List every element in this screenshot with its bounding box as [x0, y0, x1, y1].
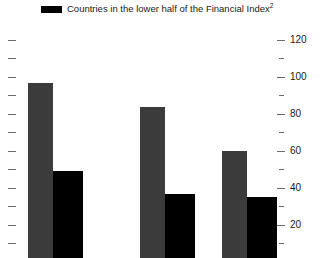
right-axis-tick-major	[277, 225, 285, 226]
right-axis-label: 80	[290, 109, 301, 119]
left-axis-tick	[8, 169, 16, 170]
left-axis-tick	[8, 206, 16, 207]
left-axis-tick	[8, 151, 16, 152]
right-axis-tick-minor	[279, 58, 284, 59]
right-axis-tick-major	[277, 40, 285, 41]
chart-container: Countries in the lower half of the Finan…	[0, 0, 333, 258]
right-axis-tick-minor	[279, 206, 284, 207]
right-axis-tick-major	[277, 151, 285, 152]
left-axis-tick	[8, 77, 16, 78]
bar-black-group-2	[165, 194, 195, 258]
left-axis-tick	[8, 132, 16, 133]
left-axis-tick	[8, 225, 16, 226]
bar-black-group-1	[53, 171, 83, 258]
bar-gray-group-2	[140, 107, 165, 258]
bar-gray-group-3	[222, 151, 247, 258]
right-axis-tick-minor	[279, 243, 284, 244]
right-axis-label: 120	[290, 35, 307, 45]
right-axis-tick-major	[277, 77, 285, 78]
right-axis-label: 20	[290, 220, 301, 230]
left-axis-tick	[8, 188, 16, 189]
left-axis-tick	[8, 58, 16, 59]
right-axis-tick-minor	[279, 132, 284, 133]
right-axis-label: 100	[290, 72, 307, 82]
plot-area: 120 100 80 60 40 20	[0, 0, 333, 258]
left-axis-tick	[8, 40, 16, 41]
right-axis-label: 40	[290, 183, 301, 193]
left-axis-tick	[8, 114, 16, 115]
left-axis-tick	[8, 243, 16, 244]
right-axis-tick-minor	[279, 95, 284, 96]
right-axis-label: 60	[290, 146, 301, 156]
bar-black-group-3	[247, 197, 277, 258]
right-axis-tick-major	[277, 188, 285, 189]
bar-gray-group-1	[28, 83, 53, 258]
right-axis-tick-minor	[279, 169, 284, 170]
left-axis-tick	[8, 95, 16, 96]
right-axis-tick-major	[277, 114, 285, 115]
